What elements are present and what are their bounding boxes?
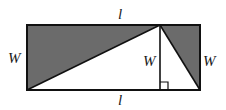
label-left-width: W (8, 50, 22, 66)
geometry-diagram: l l W W W (0, 0, 226, 110)
label-right-width: W (203, 53, 217, 69)
label-height: W (143, 53, 157, 69)
label-top-length: l (118, 6, 122, 22)
label-bottom-length: l (118, 92, 122, 108)
